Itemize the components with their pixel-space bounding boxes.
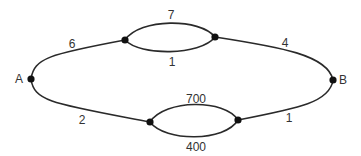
weight-a-to-bottom: 2	[79, 113, 86, 127]
weight-bottom-to-b: 1	[286, 111, 293, 125]
node-top-right	[211, 33, 218, 40]
weight-top-lower: 1	[169, 55, 176, 69]
edge-a-to-top-left	[31, 40, 125, 79]
weight-bottom-upper: 700	[186, 92, 206, 106]
edge-top-right-to-b	[215, 37, 333, 80]
node-a-label: A	[15, 72, 23, 86]
edge-top-upper-arc	[125, 23, 215, 40]
node-bottom-left	[146, 118, 153, 125]
node-b-label: B	[339, 73, 347, 87]
weight-bottom-lower: 400	[186, 140, 206, 154]
node-a	[27, 75, 34, 82]
node-bottom-right	[234, 116, 241, 123]
weight-top-to-b: 4	[282, 36, 289, 50]
edge-bottom-upper-arc	[150, 104, 238, 122]
weight-a-to-top: 6	[69, 37, 76, 51]
edge-bottom-lower-arc	[150, 120, 238, 137]
weight-top-upper: 7	[168, 8, 175, 22]
edge-a-to-bottom-left	[31, 79, 150, 122]
network-diagram: A B 6 7 1 4 2 700 400 1	[0, 0, 361, 156]
node-b	[329, 76, 336, 83]
edge-top-lower-arc	[125, 37, 215, 52]
node-top-left	[121, 36, 128, 43]
